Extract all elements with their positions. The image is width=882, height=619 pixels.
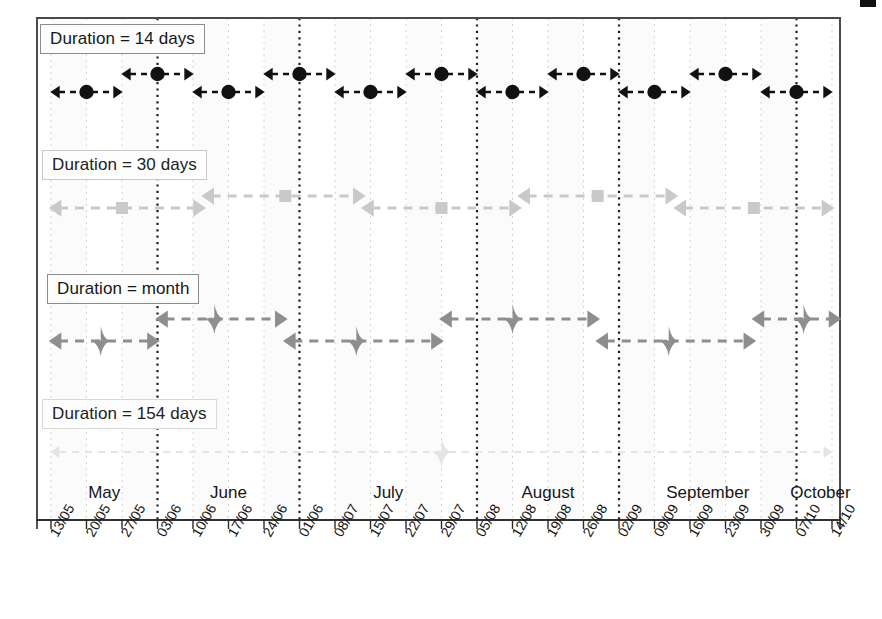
- duration-label-154-days: Duration = 154 days: [42, 399, 217, 429]
- duration-label-30-days: Duration = 30 days: [42, 150, 207, 180]
- month-band-august: August: [522, 483, 575, 503]
- duration-label-14-days: Duration = 14 days: [40, 24, 205, 54]
- month-band-september: September: [666, 483, 749, 503]
- month-band-october: October: [790, 483, 850, 503]
- duration-label-month: Duration = month: [47, 274, 199, 304]
- month-band-may: May: [88, 483, 120, 503]
- month-band-july: July: [373, 483, 403, 503]
- month-band-june: June: [210, 483, 247, 503]
- chart-figure: Duration = 14 days Duration = 30 days Du…: [0, 0, 882, 619]
